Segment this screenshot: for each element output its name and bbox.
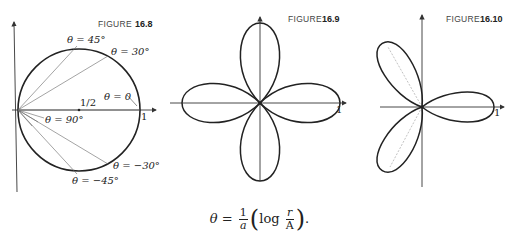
label-half: 1/2 bbox=[80, 97, 96, 108]
label-theta-minus30: θ = −30° bbox=[113, 160, 160, 171]
label-one: 1 bbox=[494, 107, 500, 118]
svg-text:16.8: 16.8 bbox=[135, 19, 153, 29]
label-theta45: θ = 45° bbox=[67, 34, 105, 45]
log-text: log bbox=[259, 211, 279, 226]
label-one: 1 bbox=[141, 111, 147, 122]
fraction-r-over-A: r A bbox=[286, 207, 294, 232]
equation-lhs: θ = bbox=[210, 211, 233, 226]
equation: θ = 1 a (log r A ). bbox=[0, 205, 519, 233]
label-theta-minus45: θ = −45° bbox=[72, 175, 119, 186]
point-half bbox=[78, 109, 81, 112]
y-axis bbox=[14, 22, 17, 192]
figures-canvas: FIGURE 16.8 θ = 45° θ = 30° θ = 0 1/2 1 … bbox=[0, 0, 519, 200]
label-one: 1 bbox=[336, 104, 342, 115]
svg-text:FIGURE: FIGURE bbox=[446, 14, 480, 24]
svg-text:16.9: 16.9 bbox=[322, 14, 340, 24]
label-theta30: θ = 30° bbox=[111, 46, 149, 57]
label-theta0: θ = 0 bbox=[104, 91, 132, 102]
figure-16-8: FIGURE 16.8 θ = 45° θ = 30° θ = 0 1/2 1 … bbox=[12, 19, 160, 192]
fraction-1-over-a: 1 a bbox=[239, 207, 248, 232]
svg-text:FIGURE: FIGURE bbox=[288, 14, 322, 24]
figure-16-9 bbox=[170, 17, 346, 181]
figure-16-10 bbox=[370, 15, 504, 187]
svg-text:FIGURE: FIGURE bbox=[98, 19, 132, 29]
label-theta90: θ = 90° bbox=[45, 114, 83, 125]
svg-text:16.10: 16.10 bbox=[480, 14, 503, 24]
